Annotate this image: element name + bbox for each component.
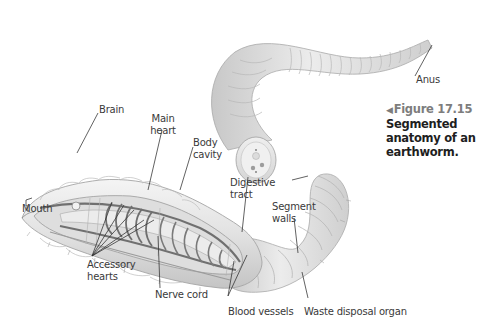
- brain: [72, 202, 80, 210]
- label-segment-walls-line2: walls: [272, 213, 316, 225]
- caption-line-1: Segmented: [386, 117, 478, 131]
- label-digestive-tract: Digestive tract: [230, 177, 275, 201]
- label-body-cavity-line2: cavity: [193, 149, 222, 161]
- caption-line-2: anatomy of an: [386, 131, 478, 145]
- label-mouth: Mouth: [22, 203, 52, 215]
- earthworm-illustration: [0, 0, 478, 333]
- label-blood-vessels: Blood vessels: [228, 306, 293, 318]
- label-waste-disposal-organ: Waste disposal organ: [304, 306, 407, 318]
- caption-line-3: earthworm.: [386, 145, 478, 159]
- label-main-heart: Main heart: [148, 113, 178, 137]
- earthworm-figure: Brain Main heart Body cavity Digestive t…: [0, 0, 478, 333]
- figure-caption: ◀Figure 17.15 Segmented anatomy of an ea…: [386, 102, 478, 159]
- lower-worm-body: [22, 174, 351, 292]
- label-brain: Brain: [99, 104, 124, 116]
- label-digestive-tract-line1: Digestive: [230, 177, 275, 189]
- label-accessory-hearts-line2: hearts: [87, 271, 136, 283]
- label-anus: Anus: [416, 74, 440, 86]
- label-accessory-hearts: Accessory hearts: [87, 259, 136, 283]
- label-accessory-hearts-line1: Accessory: [87, 259, 136, 271]
- label-main-heart-line1: Main: [148, 113, 178, 125]
- label-body-cavity: Body cavity: [193, 137, 222, 161]
- triangle-left-icon: ◀: [386, 105, 393, 115]
- label-digestive-tract-line2: tract: [230, 189, 275, 201]
- figure-number: ◀Figure 17.15: [386, 102, 478, 117]
- label-main-heart-line2: heart: [148, 125, 178, 137]
- label-segment-walls: Segment walls: [272, 201, 316, 225]
- label-segment-walls-line1: Segment: [272, 201, 316, 213]
- label-nerve-cord: Nerve cord: [155, 289, 208, 301]
- label-body-cavity-line1: Body: [193, 137, 222, 149]
